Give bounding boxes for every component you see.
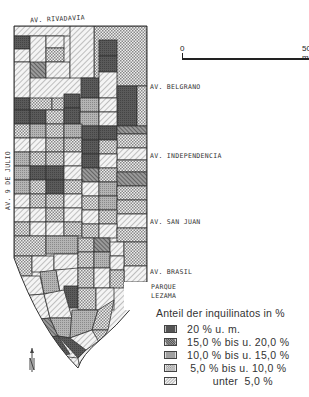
street-label-belgrano: AV. BELGRANO [150, 83, 201, 91]
park-label-line2: LEZAMA [151, 292, 176, 300]
swatch-dense-diagonal-icon [164, 338, 177, 346]
legend-item-label: 5,0 % bis u. 10,0 % [187, 362, 286, 374]
legend-item: 5,0 % bis u. 10,0 % [156, 361, 306, 374]
legend-item-label: 15,0 % bis u. 20,0 % [187, 336, 289, 348]
legend-item: 20 % u. m. [156, 322, 306, 335]
legend-item: 15,0 % bis u. 20,0 % [156, 335, 306, 348]
legend-item: 10,0 % bis u. 15,0 % [156, 348, 306, 361]
north-arrow-icon [27, 348, 37, 376]
scale-line [182, 58, 309, 60]
legend-title: Anteil der inquilinatos in % [156, 307, 306, 319]
legend-item-label: 10,0 % bis u. 15,0 % [187, 349, 289, 361]
swatch-checker-icon [164, 364, 177, 372]
legend-item-label: unter 5,0 % [187, 375, 273, 387]
street-label-san-juan: AV. SAN JUAN [150, 218, 201, 226]
street-label-9-de-julio: AV. 9 DE JULIO [4, 151, 12, 210]
swatch-fine-dots-icon [164, 351, 177, 359]
legend-item: unter 5,0 % [156, 374, 306, 387]
legend-item-label: 20 % u. m. [187, 323, 240, 335]
street-label-brasil: AV. BRASIL [150, 268, 192, 276]
legend: Anteil der inquilinatos in % 20 % u. m. … [156, 307, 306, 387]
street-label-independencia: AV. INDEPENDENCIA [150, 152, 222, 160]
swatch-light-diagonal-icon [164, 377, 177, 385]
swatch-dark-solid-icon [164, 325, 177, 333]
scale-start-label: 0 [180, 44, 184, 53]
park-label-line1: PARQUE [151, 283, 176, 291]
